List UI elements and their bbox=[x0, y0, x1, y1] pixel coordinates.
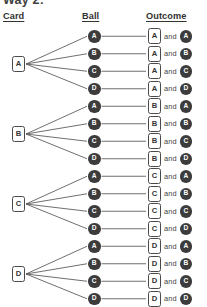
outcome-ball-d: D bbox=[180, 153, 193, 166]
outcome-ball-d: D bbox=[180, 223, 193, 236]
outcome-card-c: C bbox=[148, 186, 161, 202]
outcome-conjunction: and bbox=[164, 259, 177, 268]
outcome-ball-a: A bbox=[180, 170, 193, 183]
outcome-conjunction: and bbox=[164, 119, 177, 128]
ball-node-c: C bbox=[88, 275, 101, 288]
outcome-ball-c: C bbox=[180, 135, 193, 148]
outcome-conjunction: and bbox=[164, 242, 177, 251]
outcome-card-a: A bbox=[148, 46, 161, 62]
ball-node-b: B bbox=[88, 188, 101, 201]
outcome-conjunction: and bbox=[164, 49, 177, 58]
outcome-conjunction: and bbox=[164, 207, 177, 216]
outcome-ball-b: B bbox=[180, 188, 193, 201]
outcome-ball-b: B bbox=[180, 118, 193, 131]
outcome-row: DandD bbox=[148, 291, 192, 307]
card-node-b: B bbox=[12, 126, 25, 142]
outcome-row: CandD bbox=[148, 221, 192, 237]
outcome-card-c: C bbox=[148, 221, 161, 237]
outcome-row: CandA bbox=[148, 168, 192, 184]
outcome-card-c: C bbox=[148, 168, 161, 184]
outcome-ball-c: C bbox=[180, 65, 193, 78]
ball-node-b: B bbox=[88, 118, 101, 131]
outcome-card-d: D bbox=[148, 256, 161, 272]
outcome-row: BandB bbox=[148, 116, 192, 132]
outcome-row: AandA bbox=[148, 28, 192, 44]
outcome-ball-c: C bbox=[180, 275, 193, 288]
outcome-conjunction: and bbox=[164, 102, 177, 111]
outcome-ball-c: C bbox=[180, 205, 193, 218]
branch-line-card-to-ball bbox=[26, 264, 87, 274]
ball-node-c: C bbox=[88, 205, 101, 218]
outcome-card-b: B bbox=[148, 151, 161, 167]
outcome-conjunction: and bbox=[164, 84, 177, 93]
card-node-c: C bbox=[12, 196, 25, 212]
outcome-conjunction: and bbox=[164, 67, 177, 76]
ball-node-a: A bbox=[88, 100, 101, 113]
outcome-ball-a: A bbox=[180, 240, 193, 253]
card-node-a: A bbox=[12, 56, 25, 72]
outcome-row: BandA bbox=[148, 98, 192, 114]
outcome-card-d: D bbox=[148, 291, 161, 307]
ball-node-a: A bbox=[88, 30, 101, 43]
ball-node-a: A bbox=[88, 240, 101, 253]
outcome-card-b: B bbox=[148, 98, 161, 114]
outcome-row: CandB bbox=[148, 186, 192, 202]
outcome-card-d: D bbox=[148, 238, 161, 254]
branch-line-card-to-ball bbox=[26, 194, 87, 204]
outcome-row: BandC bbox=[148, 133, 192, 149]
outcome-row: AandD bbox=[148, 81, 192, 97]
branch-line-card-to-ball bbox=[26, 176, 87, 204]
outcome-ball-b: B bbox=[180, 258, 193, 271]
outcome-row: AandB bbox=[148, 46, 192, 62]
branch-line-card-to-ball bbox=[26, 54, 87, 64]
outcome-conjunction: and bbox=[164, 277, 177, 286]
outcome-row: DandB bbox=[148, 256, 192, 272]
branch-line-card-to-ball bbox=[26, 36, 87, 64]
outcome-ball-d: D bbox=[180, 293, 193, 306]
ball-node-c: C bbox=[88, 135, 101, 148]
outcome-row: BandD bbox=[148, 151, 192, 167]
outcome-ball-b: B bbox=[180, 48, 193, 61]
branch-line-card-to-ball bbox=[26, 246, 87, 274]
outcome-card-d: D bbox=[148, 273, 161, 289]
outcome-conjunction: and bbox=[164, 32, 177, 41]
ball-node-d: D bbox=[88, 83, 101, 96]
outcome-conjunction: and bbox=[164, 189, 177, 198]
outcome-row: AandC bbox=[148, 63, 192, 79]
outcome-card-a: A bbox=[148, 28, 161, 44]
card-node-d: D bbox=[12, 266, 25, 282]
ball-node-a: A bbox=[88, 170, 101, 183]
ball-node-c: C bbox=[88, 65, 101, 78]
outcome-row: DandC bbox=[148, 273, 192, 289]
outcome-card-b: B bbox=[148, 133, 161, 149]
outcome-card-a: A bbox=[148, 81, 161, 97]
outcome-card-b: B bbox=[148, 116, 161, 132]
ball-node-b: B bbox=[88, 48, 101, 61]
outcome-row: CandC bbox=[148, 203, 192, 219]
outcome-card-a: A bbox=[148, 63, 161, 79]
ball-node-d: D bbox=[88, 153, 101, 166]
ball-node-b: B bbox=[88, 258, 101, 271]
outcome-conjunction: and bbox=[164, 172, 177, 181]
outcome-ball-a: A bbox=[180, 100, 193, 113]
outcome-card-c: C bbox=[148, 203, 161, 219]
branch-line-card-to-ball bbox=[26, 124, 87, 134]
outcome-ball-d: D bbox=[180, 83, 193, 96]
outcome-conjunction: and bbox=[164, 154, 177, 163]
outcome-conjunction: and bbox=[164, 224, 177, 233]
ball-node-d: D bbox=[88, 223, 101, 236]
outcome-conjunction: and bbox=[164, 137, 177, 146]
ball-node-d: D bbox=[88, 293, 101, 306]
outcome-ball-a: A bbox=[180, 30, 193, 43]
outcome-conjunction: and bbox=[164, 294, 177, 303]
branch-line-card-to-ball bbox=[26, 106, 87, 134]
outcome-row: DandA bbox=[148, 238, 192, 254]
